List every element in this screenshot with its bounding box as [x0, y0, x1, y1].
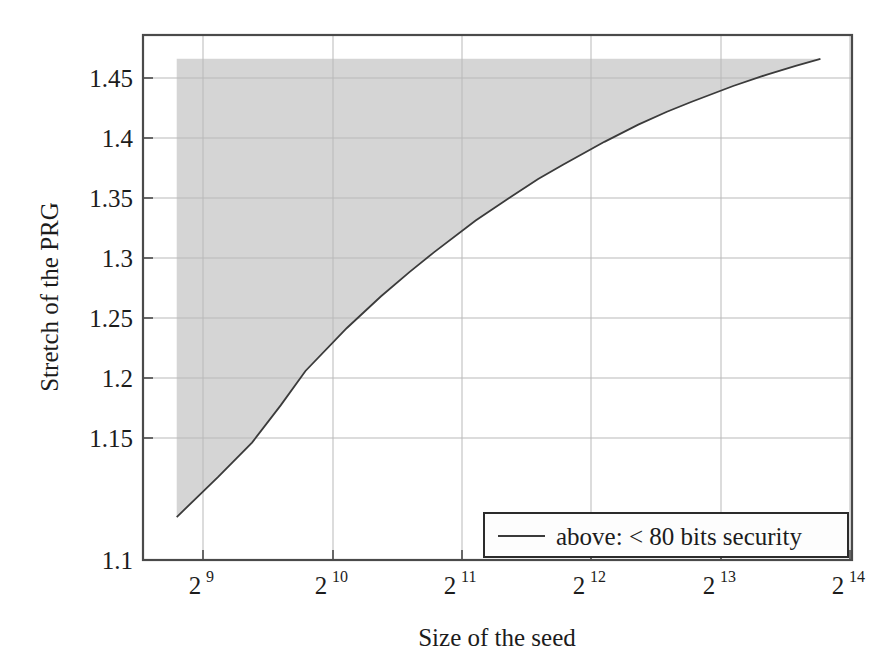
x-tick-label-2-11: 2 11: [444, 568, 477, 599]
svg-text:2: 2: [189, 572, 202, 599]
svg-text:2: 2: [444, 572, 457, 599]
x-axis-title: Size of the seed: [418, 624, 576, 651]
svg-text:2: 2: [315, 572, 328, 599]
svg-text:10: 10: [332, 568, 348, 585]
y-axis-title: Stretch of the PRG: [36, 202, 63, 392]
x-tick-label-2-10: 2 10: [315, 568, 348, 599]
y-axis-tick-labels: 1.45 1.4 1.35 1.3 1.25 1.2 1.15 1.1: [89, 65, 133, 574]
y-tick-label-1.25: 1.25: [89, 305, 133, 332]
svg-text:2: 2: [703, 572, 716, 599]
x-axis-tick-labels: 2 9 2 10 2 11 2 12 2 13 2 14: [189, 568, 865, 599]
svg-text:14: 14: [849, 568, 865, 585]
svg-text:2: 2: [832, 572, 845, 599]
chart-figure: 1.45 1.4 1.35 1.3 1.25 1.2 1.15 1.1 2 9 …: [0, 0, 885, 664]
chart-canvas: 1.45 1.4 1.35 1.3 1.25 1.2 1.15 1.1 2 9 …: [0, 0, 885, 664]
y-tick-label-1.3: 1.3: [102, 245, 133, 272]
svg-text:11: 11: [461, 568, 476, 585]
y-tick-label-1.15: 1.15: [89, 425, 133, 452]
x-tick-label-2-9: 2 9: [189, 568, 214, 599]
svg-text:13: 13: [720, 568, 736, 585]
legend[interactable]: above: < 80 bits security: [484, 513, 848, 557]
y-tick-label-1.1: 1.1: [102, 547, 133, 574]
y-tick-label-1.2: 1.2: [102, 365, 133, 392]
svg-text:12: 12: [590, 568, 606, 585]
y-tick-label-1.35: 1.35: [89, 185, 133, 212]
x-tick-label-2-13: 2 13: [703, 568, 736, 599]
svg-text:2: 2: [573, 572, 586, 599]
x-tick-label-2-12: 2 12: [573, 568, 606, 599]
y-tick-label-1.45: 1.45: [89, 65, 133, 92]
legend-entry-label: above: < 80 bits security: [556, 523, 802, 550]
x-tick-label-2-14: 2 14: [832, 568, 865, 599]
svg-text:9: 9: [206, 568, 214, 585]
y-tick-label-1.4: 1.4: [102, 125, 134, 152]
